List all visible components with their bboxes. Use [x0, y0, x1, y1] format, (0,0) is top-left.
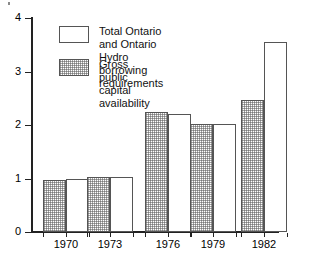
bar-borrowing-1973 [110, 177, 133, 232]
bar-capital-1973 [87, 177, 110, 232]
scan-artifact-speck [8, 2, 10, 5]
bar-borrowing-1976 [168, 114, 191, 232]
legend-label-capital: Gross public capital availability [99, 58, 150, 110]
legend-swatch-white [59, 26, 89, 43]
bar-capital-1979 [190, 124, 213, 232]
bar-capital-1976 [145, 112, 168, 232]
x-tick-1970-1 [66, 233, 67, 237]
bar-capital-1982 [241, 100, 264, 232]
legend-swatch-hatched [59, 59, 89, 76]
bar-borrowing-1982 [264, 42, 287, 232]
y-tick-label-1: 1 [0, 173, 21, 184]
x-tick-1982-0 [241, 233, 242, 237]
x-tick-1982-1 [264, 233, 265, 237]
y-tick-label-0: 0 [0, 226, 21, 237]
x-tick-1973-1 [110, 233, 111, 237]
y-tick-label-2: 2 [0, 119, 21, 130]
x-tick-1982-2 [287, 233, 288, 237]
x-tick-1976-0 [145, 233, 146, 237]
y-tick-0 [25, 232, 32, 233]
bar-borrowing-1979 [213, 124, 236, 232]
x-tick-1970-0 [43, 233, 44, 237]
x-tick-1970-2 [89, 233, 90, 237]
x-tick-1976-1 [168, 233, 169, 237]
y-tick-label-3: 3 [0, 66, 21, 77]
bar-borrowing-1970 [66, 179, 89, 233]
legend-item-capital: Gross public capital availability [59, 58, 150, 110]
x-tick-1979-0 [190, 233, 191, 237]
bar-chart: 01234 19701973197619791982 Total Ontario… [0, 0, 310, 253]
x-tick-1973-0 [87, 233, 88, 237]
x-tick-label-1973: 1973 [80, 238, 140, 250]
x-tick-label-1982: 1982 [234, 238, 294, 250]
x-tick-1979-1 [213, 233, 214, 237]
y-tick-4 [25, 18, 32, 19]
y-tick-1 [25, 179, 32, 180]
bar-capital-1970 [43, 180, 66, 232]
x-tick-1979-2 [236, 233, 237, 237]
x-tick-1976-2 [191, 233, 192, 237]
y-tick-2 [25, 125, 32, 126]
y-tick-label-4: 4 [0, 12, 21, 23]
x-tick-1973-2 [133, 233, 134, 237]
y-tick-3 [25, 72, 32, 73]
